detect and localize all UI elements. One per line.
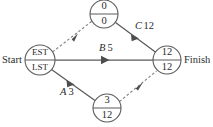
top-node[interactable]: 0 0 (90, 0, 118, 28)
start-terminal-label: Start (2, 54, 22, 65)
edge-label-b-letter: B (99, 42, 106, 53)
edge-start-to-finish-activity-b (55, 56, 153, 64)
finish-node[interactable]: 12 12 (153, 46, 181, 74)
network-diagram-svg: 0 0 EST LST 12 12 3 12 Start Finish (0, 0, 213, 127)
edge-label-a: A 3 (59, 86, 74, 97)
edge-top-to-finish-arrowhead (131, 34, 139, 41)
edge-start-to-top-line (53, 22, 92, 53)
bottom-node-lst-value: 12 (102, 109, 113, 120)
start-node-lst-label: LST (32, 62, 49, 72)
edge-label-b-duration: 5 (108, 42, 113, 53)
top-node-lst-value: 0 (101, 15, 106, 26)
edge-label-b: B 5 (99, 42, 113, 53)
edge-label-c: C 12 (135, 20, 154, 31)
edge-label-a-duration: 3 (69, 86, 74, 97)
edge-bottom-to-finish-dummy (120, 71, 157, 102)
bottom-node[interactable]: 3 12 (93, 94, 121, 122)
bottom-node-est-value: 3 (104, 94, 109, 105)
finish-terminal-label: Finish (184, 54, 211, 65)
top-node-est-value: 0 (101, 0, 106, 11)
finish-node-est-value: 12 (162, 46, 173, 57)
start-node-est-label: EST (32, 47, 49, 57)
network-diagram-canvas: 0 0 EST LST 12 12 3 12 Start Finish (0, 0, 213, 127)
edge-label-c-letter: C (135, 20, 143, 31)
edge-bottom-to-finish-line (120, 71, 157, 102)
finish-node-lst-value: 12 (162, 61, 173, 72)
edge-start-to-finish-arrowhead (101, 56, 110, 64)
edge-start-to-top-dummy (53, 22, 92, 53)
start-node[interactable]: EST LST (25, 45, 55, 75)
edge-label-a-letter: A (59, 86, 67, 97)
edge-label-c-duration: 12 (144, 20, 155, 31)
edge-bottom-to-finish-arrowhead (136, 82, 144, 90)
